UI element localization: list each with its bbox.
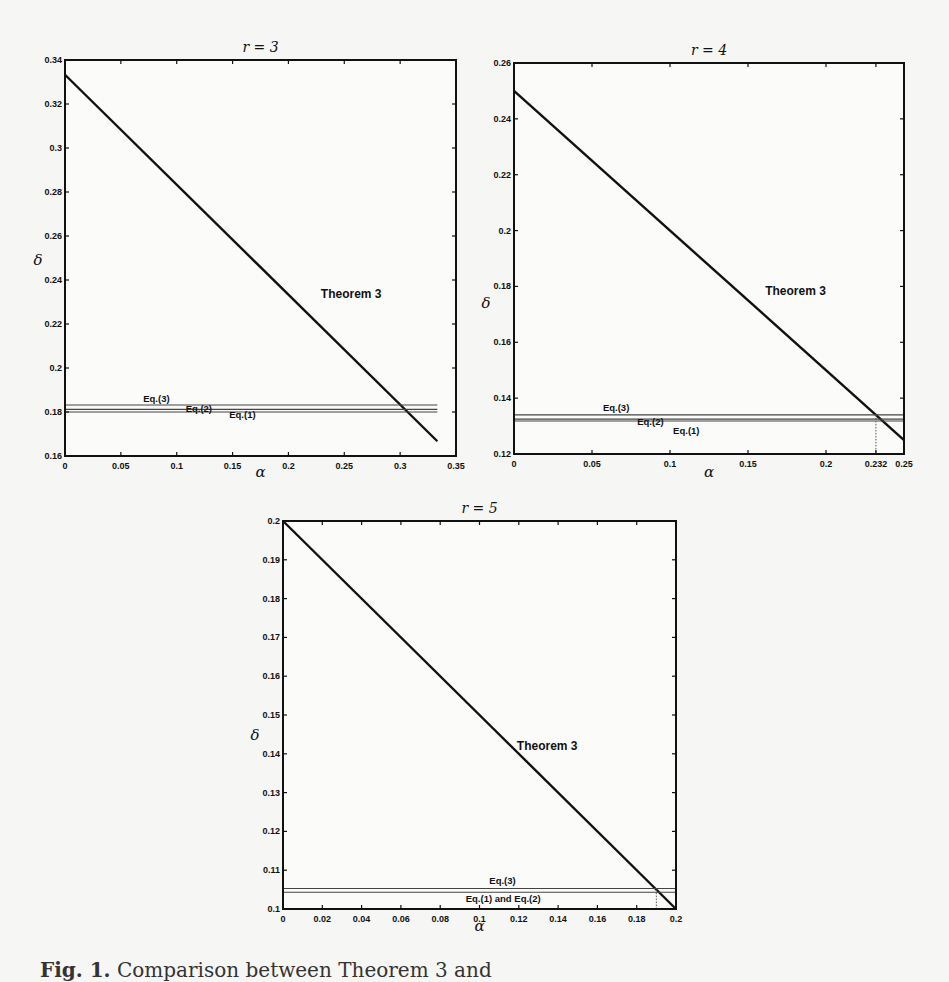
x-tick-label: 0.232 bbox=[865, 459, 888, 469]
y-tick-label: 0.16 bbox=[493, 337, 511, 347]
annotation-eq-1-and-eq-2: Eq.(1) and Eq.(2) bbox=[466, 893, 541, 904]
y-tick-label: 0.1 bbox=[267, 904, 280, 914]
x-tick-label: 0.1 bbox=[170, 461, 183, 471]
y-tick-label: 0.18 bbox=[262, 594, 280, 604]
x-tick-label: 0.05 bbox=[583, 459, 601, 469]
y-tick-label: 0.24 bbox=[44, 275, 62, 285]
x-tick-label: 0.3 bbox=[394, 461, 407, 471]
y-tick-label: 0.12 bbox=[493, 449, 511, 459]
y-tick-label: 0.16 bbox=[44, 451, 62, 461]
x-tick-label: 0.2 bbox=[282, 461, 295, 471]
y-tick-label: 0.34 bbox=[44, 55, 62, 65]
y-tick-label: 0.19 bbox=[262, 555, 280, 565]
x-tick-label: 0.25 bbox=[336, 461, 354, 471]
y-axis-label: δ bbox=[33, 251, 42, 269]
annotation-eq-3: Eq.(3) bbox=[489, 875, 515, 886]
y-tick-label: 0.26 bbox=[44, 231, 62, 241]
x-tick-label: 0.2 bbox=[820, 459, 833, 469]
y-tick-label: 0.32 bbox=[44, 99, 62, 109]
annotation-theorem-3: Theorem 3 bbox=[765, 284, 826, 298]
y-tick-label: 0.3 bbox=[49, 143, 62, 153]
plot-title: r = 4 bbox=[691, 42, 727, 58]
x-tick-label: 0 bbox=[511, 459, 516, 469]
x-tick-label: 0 bbox=[280, 914, 285, 924]
plot-title: r = 5 bbox=[461, 500, 497, 516]
y-tick-label: 0.2 bbox=[49, 363, 62, 373]
annotation-eq-2: Eq.(2) bbox=[186, 403, 212, 414]
caption-label: Fig. 1. bbox=[40, 958, 111, 982]
plot-area bbox=[514, 63, 904, 454]
plot-title: r = 3 bbox=[242, 39, 278, 55]
x-tick-label: 0 bbox=[62, 461, 67, 471]
x-tick-label: 0.06 bbox=[392, 914, 410, 924]
y-tick-label: 0.22 bbox=[493, 170, 511, 180]
y-tick-label: 0.22 bbox=[44, 319, 62, 329]
x-tick-label: 0.12 bbox=[510, 914, 528, 924]
y-tick-label: 0.18 bbox=[44, 407, 62, 417]
x-tick-label: 0.02 bbox=[314, 914, 332, 924]
y-tick-label: 0.14 bbox=[493, 393, 511, 403]
plot-r4: 00.050.10.150.20.2320.250.120.140.160.18… bbox=[481, 42, 912, 481]
y-axis-label: δ bbox=[250, 726, 259, 744]
y-tick-label: 0.12 bbox=[262, 826, 280, 836]
x-tick-label: 0.05 bbox=[112, 461, 130, 471]
x-tick-label: 0.25 bbox=[895, 459, 913, 469]
y-tick-label: 0.16 bbox=[262, 671, 280, 681]
x-axis-label: α bbox=[474, 917, 484, 935]
caption-text: Comparison between Theorem 3 and bbox=[117, 958, 492, 982]
annotation-eq-1: Eq.(1) bbox=[673, 425, 699, 436]
x-tick-label: 0.18 bbox=[628, 914, 646, 924]
x-axis-label: α bbox=[255, 463, 265, 481]
x-tick-label: 0.2 bbox=[670, 914, 683, 924]
y-axis-label: δ bbox=[481, 294, 490, 312]
figure-caption: Fig. 1. Comparison between Theorem 3 and bbox=[40, 958, 492, 982]
y-tick-label: 0.2 bbox=[498, 226, 511, 236]
y-tick-label: 0.15 bbox=[262, 710, 280, 720]
annotation-eq-2: Eq.(2) bbox=[637, 416, 663, 427]
x-axis-label: α bbox=[704, 463, 714, 481]
plot-r3: 00.050.10.150.20.250.30.350.160.180.20.2… bbox=[33, 39, 464, 481]
plot-area bbox=[65, 60, 456, 456]
y-tick-label: 0.24 bbox=[493, 114, 511, 124]
x-tick-label: 0.1 bbox=[664, 459, 677, 469]
y-tick-label: 0.26 bbox=[493, 58, 511, 68]
x-tick-label: 0.08 bbox=[431, 914, 449, 924]
x-tick-label: 0.14 bbox=[549, 914, 567, 924]
annotation-eq-3: Eq.(3) bbox=[603, 402, 629, 413]
y-tick-label: 0.14 bbox=[262, 749, 280, 759]
x-tick-label: 0.15 bbox=[739, 459, 757, 469]
annotation-theorem-3: Theorem 3 bbox=[321, 287, 382, 301]
y-tick-label: 0.18 bbox=[493, 281, 511, 291]
y-tick-label: 0.13 bbox=[262, 788, 280, 798]
annotation-eq-3: Eq.(3) bbox=[143, 393, 169, 404]
x-tick-label: 0.04 bbox=[353, 914, 371, 924]
plot-r5: 00.020.040.060.080.10.120.140.160.180.20… bbox=[250, 500, 682, 935]
y-tick-label: 0.2 bbox=[267, 516, 280, 526]
x-tick-label: 0.16 bbox=[589, 914, 607, 924]
y-tick-label: 0.17 bbox=[262, 632, 280, 642]
x-tick-label: 0.35 bbox=[447, 461, 465, 471]
y-tick-label: 0.11 bbox=[263, 865, 280, 875]
y-tick-label: 0.28 bbox=[44, 187, 62, 197]
annotation-eq-1: Eq.(1) bbox=[229, 409, 255, 420]
annotation-theorem-3: Theorem 3 bbox=[517, 739, 578, 753]
x-tick-label: 0.15 bbox=[224, 461, 242, 471]
